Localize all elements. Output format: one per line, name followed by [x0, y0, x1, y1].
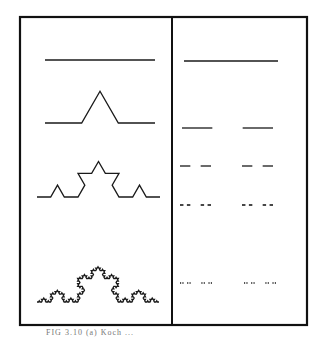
fractal-figure [0, 0, 317, 341]
figure-frame [20, 17, 307, 325]
koch-level-4 [37, 267, 159, 302]
figure-caption: FIG 3.10 (a) Koch ... [46, 328, 134, 337]
koch-level-2 [37, 161, 160, 197]
koch-level-1 [45, 91, 155, 123]
koch-curve-panel [37, 60, 160, 302]
cantor-set-panel [180, 61, 278, 283]
frame-border [20, 17, 307, 325]
